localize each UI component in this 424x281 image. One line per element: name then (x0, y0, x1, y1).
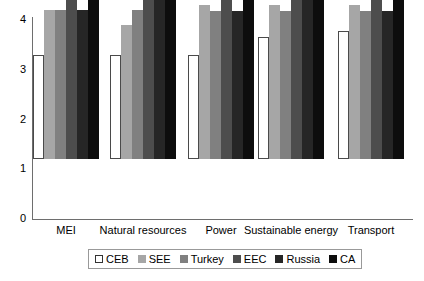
bar (44, 10, 55, 159)
legend-label: EEC (244, 254, 267, 265)
bar (77, 10, 88, 159)
bar (243, 0, 254, 159)
bar (121, 25, 132, 159)
bar (349, 5, 360, 159)
bar (66, 0, 77, 159)
bar-group (338, 0, 404, 159)
y-tick-label-4: 4 (20, 14, 26, 25)
legend-label: CA (340, 254, 355, 265)
legend-item-ceb[interactable]: CEB (95, 254, 129, 265)
category-label: Transport (301, 224, 424, 237)
legend-swatch-icon (233, 255, 241, 263)
bar (371, 0, 382, 159)
chart-legend: CEBSEETurkeyEECRussiaCA (88, 249, 362, 269)
legend-swatch-icon (329, 255, 337, 263)
bar (360, 11, 371, 159)
bar (280, 11, 291, 159)
legend-item-see[interactable]: SEE (138, 254, 171, 265)
bar (232, 11, 243, 159)
legend-swatch-icon (275, 255, 283, 263)
legend-label: Turkey (191, 254, 224, 265)
y-tick-label-2: 2 (20, 114, 26, 125)
bar-group (188, 0, 254, 159)
bar (188, 55, 199, 159)
bar (55, 10, 66, 159)
bar (338, 31, 349, 159)
legend-label: SEE (149, 254, 171, 265)
legend-item-turkey[interactable]: Turkey (180, 254, 224, 265)
y-tick-label-3: 3 (20, 64, 26, 75)
bar (110, 55, 121, 159)
legend-item-ca[interactable]: CA (329, 254, 355, 265)
legend-swatch-icon (138, 255, 146, 263)
legend-label: Russia (286, 254, 320, 265)
bar-chart: 01234 MEINatural resourcesPowerSustainab… (0, 0, 424, 281)
bar (88, 0, 99, 159)
bar (258, 37, 269, 159)
bar-group (258, 0, 324, 159)
bar (132, 10, 143, 159)
bar (302, 0, 313, 159)
bar (165, 0, 176, 159)
bar (154, 0, 165, 159)
y-tick-label-1: 1 (20, 163, 26, 174)
bar (33, 55, 44, 159)
bar (143, 0, 154, 159)
bar (313, 0, 324, 159)
bar (291, 0, 302, 159)
bar (210, 11, 221, 159)
legend-item-eec[interactable]: EEC (233, 254, 267, 265)
x-axis-category-labels: MEINatural resourcesPowerSustainable ene… (0, 224, 424, 240)
bar (269, 5, 280, 159)
bar-group (33, 0, 99, 159)
legend-swatch-icon (180, 255, 188, 263)
bar (393, 0, 404, 159)
bar-group (110, 0, 176, 159)
legend-item-russia[interactable]: Russia (275, 254, 320, 265)
y-tick-label-0: 0 (20, 213, 26, 224)
bar (221, 0, 232, 159)
bar (199, 5, 210, 159)
bar-groups (33, 0, 413, 220)
legend-label: CEB (106, 254, 129, 265)
legend-swatch-icon (95, 255, 103, 263)
bar (382, 11, 393, 159)
